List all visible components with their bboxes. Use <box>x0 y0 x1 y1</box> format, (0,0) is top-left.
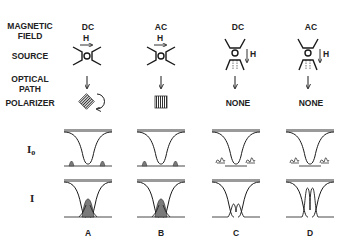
col-d-source-icon <box>298 39 320 70</box>
col-a-polarizer-icon <box>79 94 105 110</box>
panel-b-i-plot <box>137 179 185 217</box>
zeeman-sigma-components-icon <box>290 158 329 163</box>
panel-a-i-plot <box>64 179 112 217</box>
rotation-arrow-icon <box>97 94 105 109</box>
col-c-source-icon <box>225 39 247 70</box>
panel-a-i0-plot <box>64 129 112 166</box>
panel-b-i0-plot <box>137 129 185 166</box>
panel-c-i0-plot <box>212 129 260 166</box>
zeeman-sigma-components-icon <box>216 158 255 163</box>
col-a-source-icon <box>73 45 101 65</box>
panel-c-i-plot <box>212 179 260 217</box>
diagram-canvas <box>0 0 339 240</box>
panel-d-i0-plot <box>286 129 334 166</box>
polarizer-grid-icon <box>79 94 95 110</box>
col-b-polarizer-grid-icon <box>155 96 167 108</box>
panel-d-i-plot <box>286 179 334 217</box>
col-b-source-icon <box>147 45 175 65</box>
